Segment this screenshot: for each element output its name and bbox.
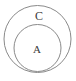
euler-diagram-canvas: C A (0, 0, 76, 81)
outer-set-label: C (35, 9, 43, 23)
inner-set-label: A (33, 43, 41, 55)
euler-diagram-container: C A (0, 0, 76, 81)
